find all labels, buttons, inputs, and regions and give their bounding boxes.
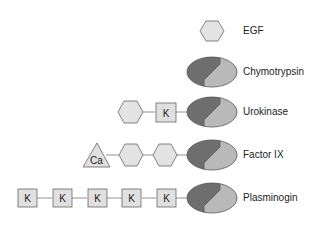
kringle-label: K [128, 193, 135, 204]
label-egf: EGF [243, 25, 264, 37]
row-egf [200, 21, 224, 41]
label-factor-ix: Factor IX [243, 149, 284, 161]
kringle-box-icon: K [53, 189, 72, 207]
row-factor-ix: Ca [83, 138, 237, 173]
egf-hexagon-icon [200, 21, 224, 41]
label-chymotrypsin: Chymotrypsin [243, 66, 304, 78]
egf-hexagon-icon [118, 101, 143, 123]
row-urokinase: K [118, 95, 237, 130]
kringle-label: K [24, 193, 31, 204]
kringle-label: K [94, 193, 101, 204]
kringle-box-icon: K [18, 189, 37, 207]
row-plasminogin: K K K K K [18, 181, 237, 216]
egf-hexagon-icon [119, 144, 143, 166]
kringle-label: K [163, 193, 170, 204]
kringle-box-icon: K [122, 189, 141, 207]
label-plasminogin: Plasminogin [243, 192, 297, 204]
protease-ellipse-icon [180, 138, 237, 173]
kringle-box-icon: K [157, 189, 176, 207]
row-chymotrypsin [180, 55, 237, 90]
kringle-box-icon: K [156, 103, 176, 122]
calcium-label: Ca [90, 155, 103, 166]
calcium-triangle-icon: Ca [83, 143, 110, 167]
protease-ellipse-icon [180, 181, 237, 216]
kringle-box-icon: K [88, 189, 107, 207]
egf-hexagon-icon [153, 144, 177, 166]
protease-ellipse-icon [180, 55, 237, 90]
kringle-label: K [163, 108, 170, 119]
label-urokinase: Urokinase [243, 106, 288, 118]
protease-ellipse-icon [180, 95, 237, 130]
kringle-label: K [59, 193, 66, 204]
